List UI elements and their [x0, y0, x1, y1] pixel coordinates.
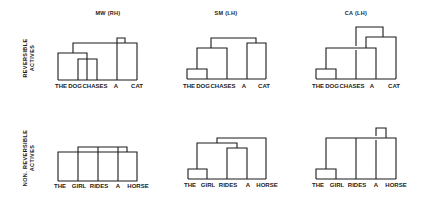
word-reversible-ca: A	[370, 83, 374, 89]
word-nonreversible-sm: RIDES	[219, 182, 237, 188]
word-reversible-ca: THE	[312, 83, 324, 89]
word-reversible-sm: CAT	[258, 83, 270, 89]
word-nonreversible-ca: GIRL	[330, 182, 344, 188]
word-reversible-mw: THE	[55, 83, 67, 89]
word-reversible-ca: CAT	[388, 83, 400, 89]
tree-nonreversible-ca	[316, 128, 396, 179]
tree-diagrams	[0, 0, 423, 200]
tree-reversible-ca	[316, 27, 396, 79]
word-reversible-mw: CAT	[131, 83, 143, 89]
word-reversible-sm: DOG	[196, 83, 210, 89]
word-nonreversible-mw: HORSE	[127, 183, 148, 189]
word-nonreversible-sm: THE	[184, 182, 196, 188]
word-nonreversible-mw: RIDES	[90, 183, 108, 189]
word-reversible-mw: A	[114, 83, 118, 89]
word-reversible-sm: CHASES	[210, 83, 235, 89]
word-reversible-mw: CHASES	[82, 83, 107, 89]
word-nonreversible-sm: HORSE	[256, 182, 277, 188]
tree-nonreversible-mw	[58, 147, 137, 181]
tree-nonreversible-sm	[188, 138, 266, 179]
word-nonreversible-mw: A	[116, 183, 120, 189]
tree-reversible-sm	[187, 38, 266, 79]
word-reversible-ca: CHASES	[339, 83, 364, 89]
word-nonreversible-mw: GIRL	[72, 183, 86, 189]
word-reversible-sm: A	[242, 83, 246, 89]
tree-reversible-mw	[58, 38, 137, 80]
word-nonreversible-ca: THE	[312, 182, 324, 188]
word-nonreversible-ca: A	[374, 182, 378, 188]
word-nonreversible-sm: A	[246, 182, 250, 188]
word-reversible-mw: DOG	[68, 83, 82, 89]
word-reversible-sm: THE	[183, 83, 195, 89]
word-nonreversible-ca: HORSE	[385, 182, 406, 188]
word-nonreversible-ca: RIDES	[348, 182, 366, 188]
word-nonreversible-mw: THE	[54, 183, 66, 189]
word-nonreversible-sm: GIRL	[201, 182, 215, 188]
word-reversible-ca: DOG	[325, 83, 339, 89]
